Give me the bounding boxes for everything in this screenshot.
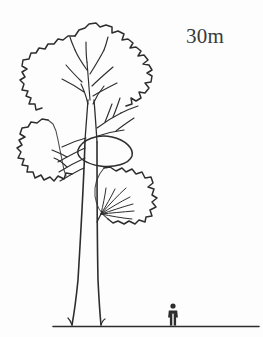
human-legs-right xyxy=(174,313,176,325)
human-head xyxy=(170,303,175,308)
height-label: 30m xyxy=(186,24,224,48)
human-legs xyxy=(170,313,172,325)
tree-scale-drawing xyxy=(0,0,263,337)
scale-illustration-figure: 30m xyxy=(0,0,263,337)
